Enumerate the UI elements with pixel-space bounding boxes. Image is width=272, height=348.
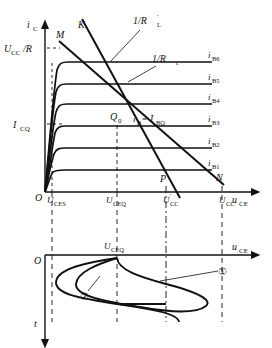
top-y-axis-sub: C <box>33 25 38 33</box>
ib6-sub: B6 <box>212 55 220 62</box>
waveform-2-callout: ② <box>80 291 89 302</box>
bottom-uceq-label: U CEQ <box>104 241 124 253</box>
point-label-k: K <box>77 19 86 30</box>
inter-plot-guides <box>52 186 222 322</box>
ac-load-main: 1/R <box>133 15 147 26</box>
qann-eq: = <box>142 114 147 124</box>
curve-ib5 <box>45 84 212 191</box>
ib2-main: i <box>208 136 211 146</box>
qann-main2: I <box>149 113 154 124</box>
ib3-sub: B3 <box>212 119 220 126</box>
point-q0-sub: 0 <box>118 117 122 125</box>
ytick-ucc-tail: /R <box>22 43 32 54</box>
leader-lines <box>110 30 156 82</box>
load-lines <box>59 19 224 198</box>
xtick-label-ucc-prime: U ' CC <box>163 192 179 207</box>
bottom-x-axis-symbol: u <box>232 241 237 252</box>
bottom-origin-label: O <box>34 255 41 266</box>
xtick-uccp-main: U <box>163 195 170 205</box>
ib1-sub: B1 <box>212 163 220 170</box>
curve-label-ib3: i B3 <box>208 114 220 126</box>
leader-dc-load-line <box>128 66 156 82</box>
xtick-ucc-main: U <box>219 195 226 205</box>
characteristic-curve-figure: i C u CE O U CC /R I CQ U CES U CEQ U ' … <box>0 0 272 348</box>
xtick-uces-sub: CES <box>54 200 66 207</box>
xtick-uceq-sub: CEQ <box>113 200 126 207</box>
top-origin-label: O <box>35 192 42 203</box>
xtick-uceq-main: U <box>106 195 113 205</box>
qann-sub2: BQ <box>156 119 165 126</box>
xtick-uccp-sub: CC <box>170 200 179 207</box>
waveform-2-path <box>56 258 179 322</box>
bottom-waveforms <box>56 258 208 322</box>
leader-ac-load-line <box>110 30 140 62</box>
curve-label-ib2: i B2 <box>208 136 220 148</box>
ib5-main: i <box>208 72 211 82</box>
bottom-uceq-sub: CEQ <box>111 246 124 253</box>
top-y-axis-label: i C <box>27 19 38 33</box>
ac-load-prime: ' <box>157 13 158 21</box>
point-label-n: N <box>215 172 224 183</box>
ib4-sub: B4 <box>212 97 220 104</box>
line-label-dc-load: 1/R c <box>152 53 179 66</box>
curve-ib1 <box>45 170 212 192</box>
ib4-main: i <box>208 92 211 102</box>
point-label-q0: Q 0 <box>110 111 122 125</box>
top-plot-axes <box>45 28 252 192</box>
top-y-axis-symbol: i <box>27 19 30 30</box>
ib5-sub: B5 <box>212 77 220 84</box>
xtick-uces-main: U <box>47 195 54 205</box>
bottom-x-axis-label: u CE <box>232 241 248 255</box>
leader-waveform-1 <box>160 271 218 281</box>
xtick-label-uceq: U CEQ <box>106 195 126 207</box>
dc-load-main: 1/R <box>152 53 166 64</box>
ib6-main: i <box>208 50 211 60</box>
ac-load-line <box>82 19 180 198</box>
waveform-1-callout: ① <box>218 266 227 277</box>
ytick-label-ucc-over-r: U CC /R <box>4 43 32 57</box>
ytick-label-icq: I CQ <box>12 119 30 133</box>
curve-label-ib5: i B5 <box>208 72 220 84</box>
bottom-uceq-main: U <box>104 241 111 251</box>
ib1-main: i <box>208 158 211 168</box>
bottom-t-axis-label: t <box>34 318 37 329</box>
q-annotation: i B = I BQ <box>133 113 165 126</box>
leader-waveform-2 <box>88 276 100 291</box>
ytick-ucc-sub: CC <box>11 49 21 57</box>
xtick-label-uces: U CES <box>47 195 66 207</box>
ac-load-sub: L <box>157 21 161 28</box>
bottom-x-axis-sub: CE <box>239 247 248 255</box>
curve-label-ib4: i B4 <box>208 92 220 104</box>
point-label-m: M <box>55 29 65 40</box>
point-label-p: P <box>159 173 166 184</box>
xtick-uccp-prime: ' <box>170 192 171 200</box>
line-label-ac-load: 1/R ' L <box>133 13 161 28</box>
ytick-icq-sub: CQ <box>20 125 30 133</box>
point-q0-main: Q <box>110 111 118 122</box>
figure-root: i C u CE O U CC /R I CQ U CES U CEQ U ' … <box>0 0 272 348</box>
curve-label-ib1: i B1 <box>208 158 220 170</box>
curve-ib3 <box>45 126 212 192</box>
ib2-sub: B2 <box>212 141 220 148</box>
ytick-icq-main: I <box>12 119 17 130</box>
curve-label-ib6: i B6 <box>208 50 220 62</box>
dc-load-sub: c <box>176 59 179 66</box>
top-x-axis-sub: CE <box>239 200 248 208</box>
xtick-ucc-sub: CC <box>226 200 235 207</box>
ib3-main: i <box>208 114 211 124</box>
